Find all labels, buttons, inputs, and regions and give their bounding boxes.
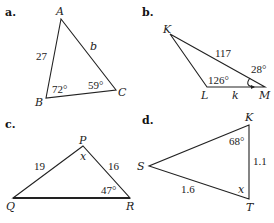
vertex-B: B <box>34 96 43 109</box>
angle-L: 126° <box>208 74 229 86</box>
angle-K: 68° <box>229 135 244 147</box>
vertex-L: L <box>200 89 208 102</box>
arrowhead-icon <box>251 85 255 89</box>
side-PQ-length: 19 <box>34 160 46 172</box>
part-label-c: c. <box>5 118 16 131</box>
angle-B: 72° <box>52 83 67 95</box>
part-label-b: b. <box>142 6 154 19</box>
side-ST-length: 1.6 <box>181 183 195 195</box>
part-label-a: a. <box>5 6 16 19</box>
side-PR-length: 16 <box>108 160 120 172</box>
vertex-K: K <box>244 111 254 124</box>
angle-C: 59° <box>88 79 103 91</box>
vertex-R: R <box>125 200 134 213</box>
vertex-C: C <box>118 86 127 99</box>
part-label-d: d. <box>142 114 154 127</box>
triangle-a: a. A B C 27 b 72° 59° <box>5 5 127 109</box>
side-KM-length: 117 <box>215 47 232 59</box>
angle-P: x <box>80 150 87 163</box>
vertex-M: M <box>258 89 271 102</box>
triangle-b: b. K L M 117 k 126° 28° <box>142 6 271 102</box>
triangle-d: d. K S T 1.1 1.6 68° x <box>137 111 267 214</box>
angle-M: 28° <box>251 63 266 75</box>
triangle-exercises: a. A B C 27 b 72° 59° b. K L M 117 k 126… <box>0 0 274 223</box>
side-AC-label: b <box>90 40 97 53</box>
vertex-S: S <box>137 160 145 173</box>
vertex-A: A <box>55 5 64 18</box>
vertex-T: T <box>246 201 255 214</box>
vertex-K: K <box>162 23 172 36</box>
angle-T: x <box>238 183 245 196</box>
vertex-Q: Q <box>6 200 15 213</box>
side-LM-label: k <box>232 89 239 102</box>
side-KT-length: 1.1 <box>253 155 267 167</box>
side-AB-length: 27 <box>36 50 48 62</box>
triangle-c: c. P Q R 19 16 x 47° <box>5 118 134 213</box>
vertex-P: P <box>78 134 87 147</box>
angle-R: 47° <box>101 184 116 196</box>
